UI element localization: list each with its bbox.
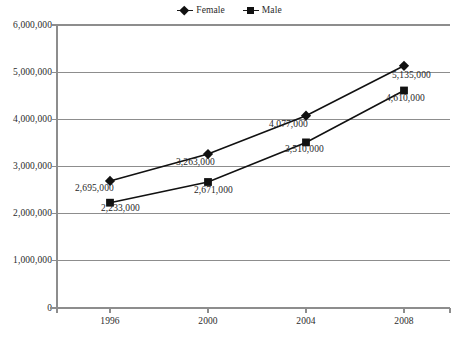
gridlines xyxy=(57,25,450,261)
series-markers-male xyxy=(106,87,408,207)
data-label-male-1996: 2,233,000 xyxy=(101,203,140,213)
series-line-male xyxy=(110,91,404,203)
data-label-male-2000: 2,671,000 xyxy=(194,185,233,195)
x-axis-ticks xyxy=(57,308,450,313)
series-markers-female xyxy=(105,61,409,186)
data-label-female-2000: 3,263,000 xyxy=(176,157,215,167)
plot-area xyxy=(0,0,459,340)
data-label-male-2008: 4,610,000 xyxy=(386,93,425,103)
data-label-female-2004: 4,077,000 xyxy=(269,119,308,129)
y-axis-ticks xyxy=(52,25,57,308)
series-line-female xyxy=(110,66,404,181)
data-label-female-2008: 5,135,000 xyxy=(392,70,431,80)
line-chart: Female Male 6,000,000 5,000,000 4,000,00… xyxy=(0,0,459,340)
data-label-female-1996: 2,695,000 xyxy=(75,183,114,193)
data-label-male-2004: 3,510,000 xyxy=(285,144,324,154)
